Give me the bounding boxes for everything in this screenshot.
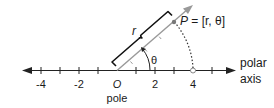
dotted-arc	[176, 24, 193, 68]
polar-axis	[22, 67, 236, 74]
pole-label: pole	[107, 93, 128, 104]
polar-axis-label-line2: axis	[240, 73, 261, 85]
tick-label: 2	[152, 79, 158, 90]
left-arrow-icon	[22, 67, 32, 74]
r-bracket	[112, 12, 172, 67]
theta-label: θ	[151, 55, 157, 66]
tick-label: -4	[36, 79, 46, 90]
point-p-label: P = [r, θ]	[180, 15, 225, 27]
theta-arc	[142, 49, 150, 71]
point-p-coords: = [r, θ]	[191, 14, 225, 28]
polar-diagram	[0, 0, 274, 108]
point-p-marker	[172, 20, 176, 24]
right-arrow-icon	[226, 67, 236, 74]
origin-label: O	[113, 79, 122, 90]
tick-label: -2	[74, 79, 84, 90]
r-label: r	[132, 25, 136, 37]
polar-axis-label-line1: polar	[240, 57, 267, 69]
point-p-name: P	[180, 14, 188, 28]
axis-point-4	[191, 68, 196, 73]
tick-label: 4	[190, 79, 196, 90]
